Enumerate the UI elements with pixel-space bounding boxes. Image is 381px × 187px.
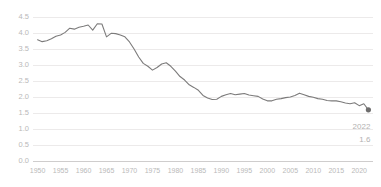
x-tick-label: 2005 [283, 167, 299, 174]
x-tick-label: 1985 [191, 167, 207, 174]
y-tick-label: 2.0 [19, 92, 29, 101]
y-tick-label: 3.0 [19, 60, 29, 69]
x-tick-label: 2015 [328, 167, 344, 174]
x-tick-label: 2020 [351, 167, 367, 174]
x-axis-labels: 1950195519601965197019751980198519901995… [30, 167, 367, 174]
annotation-value-label: 1.6 [359, 135, 371, 144]
x-tick-label: 2000 [260, 167, 276, 174]
y-tick-label: 3.5 [19, 44, 29, 53]
x-tick-label: 1965 [99, 167, 115, 174]
y-tick-label: 0.5 [19, 140, 29, 149]
x-tick-label: 1950 [30, 167, 46, 174]
x-tick-label: 1960 [76, 167, 92, 174]
x-tick-label: 2010 [305, 167, 321, 174]
gridlines-group [33, 17, 373, 161]
y-tick-label: 0.0 [19, 156, 29, 165]
x-tick-label: 1980 [168, 167, 184, 174]
annotation-year-label: 2022 [353, 122, 371, 131]
x-tick-label: 1970 [122, 167, 138, 174]
y-tick-label: 4.0 [19, 28, 29, 37]
x-tick-label: 1990 [214, 167, 230, 174]
line-chart: 0.00.51.01.52.02.53.03.54.04.5 195019551… [0, 0, 381, 187]
y-tick-label: 4.5 [19, 12, 29, 21]
y-axis-labels: 0.00.51.01.52.02.53.03.54.04.5 [19, 12, 29, 165]
chart-svg: 0.00.51.01.52.02.53.03.54.04.5 195019551… [0, 0, 381, 187]
end-point-marker [366, 107, 371, 112]
y-tick-label: 1.5 [19, 108, 29, 117]
x-tick-label: 1955 [53, 167, 69, 174]
x-tick-label: 1995 [237, 167, 253, 174]
y-tick-label: 2.5 [19, 76, 29, 85]
y-tick-label: 1.0 [19, 124, 29, 133]
x-tick-label: 1975 [145, 167, 161, 174]
